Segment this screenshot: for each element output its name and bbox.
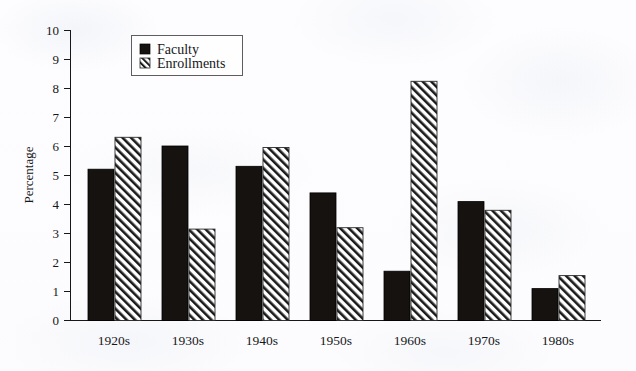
bar-enrollments-1920s[interactable]	[115, 137, 141, 320]
bar-faculty-1940s[interactable]	[236, 166, 262, 320]
bar-group-1920s	[88, 137, 141, 320]
x-axis-tick-labels: 1920s 1930s 1940s 1950s 1960s 1970s 1980…	[98, 333, 574, 348]
legend-label-faculty: Faculty	[157, 42, 199, 57]
y-tick-label-0: 0	[53, 313, 60, 328]
legend-swatch-faculty-icon	[140, 44, 150, 54]
y-tick-label-10: 10	[46, 23, 59, 38]
chart-legend[interactable]: Faculty Enrollments	[132, 36, 243, 76]
y-tick-label-2: 2	[53, 255, 60, 270]
bar-faculty-1960s[interactable]	[384, 271, 410, 320]
bar-group-1960s	[384, 81, 437, 320]
legend-item-faculty[interactable]: Faculty	[140, 42, 199, 57]
bar-faculty-1970s[interactable]	[458, 202, 484, 321]
bar-enrollments-1940s[interactable]	[263, 148, 289, 321]
x-tick-label-1980s: 1980s	[542, 333, 574, 348]
bar-group-1980s	[532, 276, 585, 321]
y-tick-label-4: 4	[53, 197, 60, 212]
y-tick-label-7: 7	[53, 110, 60, 125]
bar-group-1950s	[310, 193, 363, 321]
bar-enrollments-1960s[interactable]	[411, 81, 437, 320]
x-tick-label-1920s: 1920s	[98, 333, 130, 348]
bars-layer	[88, 81, 585, 320]
x-tick-label-1960s: 1960s	[394, 333, 426, 348]
bar-faculty-1920s[interactable]	[88, 169, 114, 320]
legend-swatch-enrollments-icon	[140, 58, 150, 68]
y-axis: 10 9 8 7 6 5 4 3 2 1 0 Percentage	[21, 23, 71, 328]
x-tick-label-1930s: 1930s	[172, 333, 204, 348]
bar-faculty-1950s[interactable]	[310, 193, 336, 321]
bar-enrollments-1980s[interactable]	[559, 276, 585, 321]
bar-enrollments-1930s[interactable]	[189, 229, 215, 320]
chart-svg-canvas: 10 9 8 7 6 5 4 3 2 1 0 Percentage	[0, 0, 636, 371]
bar-faculty-1930s[interactable]	[162, 146, 188, 321]
bar-enrollments-1950s[interactable]	[337, 228, 363, 321]
y-tick-label-5: 5	[53, 168, 60, 183]
x-tick-label-1970s: 1970s	[468, 333, 500, 348]
bar-group-1970s	[458, 202, 511, 321]
y-axis-ticks	[64, 31, 71, 321]
y-axis-tick-labels: 10 9 8 7 6 5 4 3 2 1 0	[46, 23, 60, 328]
bar-group-1940s	[236, 148, 289, 321]
y-tick-label-3: 3	[53, 226, 60, 241]
bar-chart-figure: 10 9 8 7 6 5 4 3 2 1 0 Percentage	[0, 0, 636, 371]
bar-group-1930s	[162, 146, 215, 321]
x-tick-label-1940s: 1940s	[246, 333, 278, 348]
bar-faculty-1980s[interactable]	[532, 289, 558, 321]
y-tick-label-1: 1	[53, 284, 60, 299]
y-tick-label-6: 6	[53, 139, 60, 154]
y-tick-label-9: 9	[53, 52, 60, 67]
y-tick-label-8: 8	[53, 81, 60, 96]
y-axis-title: Percentage	[21, 146, 36, 203]
x-tick-label-1950s: 1950s	[320, 333, 352, 348]
legend-label-enrollments: Enrollments	[157, 56, 225, 71]
bar-enrollments-1970s[interactable]	[485, 210, 511, 320]
